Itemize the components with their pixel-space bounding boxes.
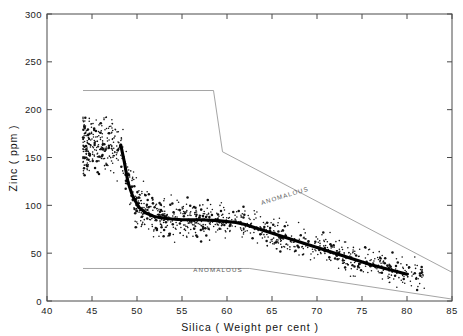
scatter-point: [202, 216, 204, 218]
scatter-point: [188, 232, 190, 234]
scatter-point: [95, 130, 98, 133]
scatter-point: [408, 267, 410, 269]
scatter-point: [158, 209, 160, 211]
scatter-point: [301, 246, 303, 248]
scatter-point: [253, 219, 255, 221]
scatter-point: [147, 206, 150, 209]
scatter-point: [123, 172, 125, 174]
scatter-point: [141, 191, 143, 193]
scatter-point: [153, 206, 156, 209]
scatter-point: [178, 201, 180, 203]
scatter-point: [136, 227, 138, 229]
scatter-point: [117, 141, 119, 143]
scatter-point: [107, 140, 109, 142]
scatter-point: [113, 172, 115, 174]
scatter-point: [323, 245, 325, 247]
scatter-point: [379, 256, 381, 258]
scatter-point: [378, 251, 380, 253]
scatter-point: [407, 276, 409, 278]
scatter-point: [234, 214, 236, 216]
scatter-point: [185, 230, 187, 232]
scatter-point: [160, 209, 163, 212]
scatter-point: [221, 202, 223, 204]
scatter-point: [271, 238, 273, 240]
scatter-point: [280, 239, 282, 241]
scatter-point: [208, 212, 210, 214]
scatter-point: [194, 222, 196, 224]
scatter-point: [253, 210, 255, 212]
scatter-point: [208, 216, 211, 219]
scatter-point: [160, 226, 163, 229]
scatter-point: [303, 228, 305, 230]
scatter-point: [422, 275, 424, 277]
scatter-point: [192, 235, 194, 237]
scatter-point: [85, 149, 87, 151]
scatter-point: [134, 221, 136, 223]
scatter-point: [92, 134, 94, 136]
scatter-point: [406, 264, 408, 266]
scatter-point: [273, 237, 275, 239]
scatter-point: [260, 216, 262, 218]
scatter-point: [117, 159, 119, 161]
scatter-point: [175, 216, 177, 218]
scatter-point: [343, 262, 345, 264]
scatter-point: [347, 264, 349, 266]
scatter-point: [191, 222, 193, 224]
scatter-point: [91, 126, 93, 128]
scatter-point: [319, 245, 321, 247]
y-tick-label: 300: [25, 9, 42, 20]
scatter-point: [165, 214, 168, 217]
scatter-point: [190, 211, 192, 213]
scatter-point: [267, 226, 269, 228]
scatter-point: [146, 217, 149, 220]
scatter-point: [270, 222, 272, 224]
scatter-point: [86, 157, 88, 159]
scatter-point: [417, 278, 419, 280]
scatter-point: [139, 194, 141, 196]
scatter-point: [354, 250, 356, 252]
scatter-point: [382, 278, 384, 280]
scatter-point: [170, 221, 172, 223]
scatter-point: [92, 151, 94, 153]
scatter-point: [120, 140, 122, 142]
scatter-point: [287, 248, 289, 250]
scatter-point: [207, 199, 210, 202]
scatter-point: [240, 216, 242, 218]
scatter-point: [387, 265, 389, 267]
scatter-point: [305, 238, 307, 240]
scatter-point: [82, 116, 84, 118]
scatter-point: [125, 151, 127, 153]
scatter-point: [225, 231, 227, 233]
scatter-point: [352, 249, 354, 251]
scatter-point: [391, 251, 394, 254]
scatter-point: [165, 226, 167, 228]
scatter-point: [264, 223, 266, 225]
scatter-point: [152, 210, 154, 212]
scatter-point: [387, 277, 389, 279]
scatter-point: [96, 153, 98, 155]
scatter-point: [136, 208, 138, 210]
scatter-point: [111, 145, 113, 147]
scatter-point: [206, 215, 208, 217]
scatter-point: [338, 267, 340, 269]
scatter-point: [82, 118, 84, 120]
scatter-point: [352, 252, 354, 254]
scatter-point: [256, 211, 258, 213]
scatter-point: [186, 237, 188, 239]
scatter-point: [389, 277, 391, 279]
scatter-point: [363, 271, 365, 273]
scatter-point: [158, 213, 161, 216]
scatter-point: [257, 242, 259, 244]
scatter-point: [242, 213, 244, 215]
scatter-point: [109, 126, 111, 128]
scatter-point: [144, 224, 146, 226]
scatter-point: [356, 268, 358, 270]
scatter-point: [224, 237, 226, 239]
figure-background: [0, 0, 463, 336]
scatter-point: [133, 171, 135, 173]
scatter-point: [90, 146, 92, 148]
scatter-point: [244, 231, 246, 233]
x-tick-label: 85: [446, 305, 457, 316]
scatter-point: [380, 258, 382, 260]
scatter-point: [302, 254, 304, 256]
